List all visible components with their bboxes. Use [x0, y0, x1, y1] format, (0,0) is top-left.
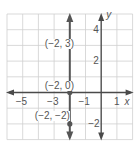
y-axis-label: y [106, 10, 111, 20]
y-tick-label: 4 [93, 25, 99, 35]
coordinate-plane [0, 0, 140, 145]
point-label: (−2, 3) [45, 39, 74, 49]
y-tick-label: −2 [88, 119, 99, 129]
point-label: (−2, 0) [45, 81, 74, 91]
y-tick-label: 2 [93, 56, 99, 66]
x-tick-label: −3 [47, 97, 58, 107]
x-tick-label: −1 [79, 97, 90, 107]
data-point [67, 121, 72, 126]
x-axis-label: x [125, 97, 130, 107]
x-tick-label: 1 [114, 97, 120, 107]
data-point [67, 90, 72, 95]
x-tick-label: −5 [16, 97, 27, 107]
point-label: (−2, −2) [35, 111, 70, 121]
